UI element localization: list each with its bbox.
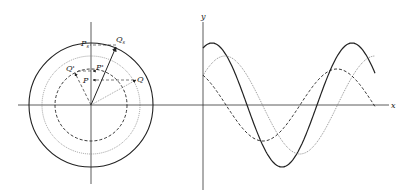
label-Q-prime: Q' [66, 64, 75, 73]
label-Qs: Qs [116, 35, 126, 45]
label-Q: Q [137, 75, 144, 84]
label-Ps: Ps [80, 39, 89, 49]
y-axis-label: y [200, 12, 206, 21]
phasor-diagram: Ps Qs Q' P' P Q [18, 22, 200, 184]
x-axis-label: x [391, 101, 396, 110]
phasor-wave-diagram: Ps Qs Q' P' P Q y x [0, 0, 408, 194]
label-P: P [82, 76, 89, 85]
label-P-prime: P' [95, 63, 104, 72]
wave-graph: y x [200, 12, 396, 190]
vector-Q [91, 80, 136, 105]
